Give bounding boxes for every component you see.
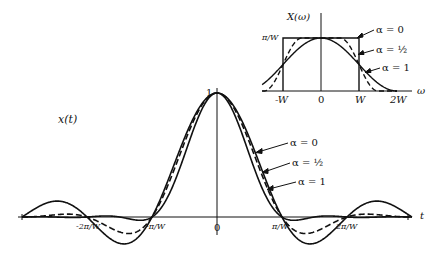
inset-legend-alpha-half: α = ½ <box>376 45 407 55</box>
legend-alpha-0: α = 0 <box>290 138 318 148</box>
omega-axis-label: ω <box>417 86 425 96</box>
legend-alpha-1: α = 1 <box>298 177 326 187</box>
inset-tick-minus-w: -W <box>275 95 288 105</box>
inset-legend-alpha-0: α = 0 <box>376 25 404 35</box>
tick-label-minus-2pi-over-w: -2π/W <box>76 222 100 232</box>
legend-alpha-half: α = ½ <box>292 158 323 168</box>
inset-level-label: π/W <box>262 33 278 43</box>
inset-legend-alpha-1: α = 1 <box>382 63 410 73</box>
tick-label-pi-over-w: π/W <box>272 222 288 232</box>
tick-label-2pi-over-w: 2π/W <box>336 222 357 232</box>
peak-value-label: 1 <box>206 88 212 98</box>
tick-label-minus-pi-over-w: -π/W <box>146 222 165 232</box>
inset-tick-zero: 0 <box>318 95 324 105</box>
t-axis-label: t <box>420 211 424 221</box>
tick-label-zero: 0 <box>214 223 220 233</box>
y-axis-label: x(t) <box>58 115 77 125</box>
inset-tick-2w: 2W <box>390 95 407 105</box>
inset-tick-w: W <box>355 95 365 105</box>
main-legend-arrows <box>256 143 296 191</box>
inset-y-axis-label: X(ω) <box>287 12 310 22</box>
